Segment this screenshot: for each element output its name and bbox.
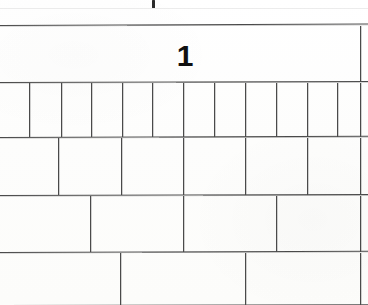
grid-divider-r5-c2 [245,253,246,305]
grid-divider-r3-c3 [183,138,184,195]
cropped-rule-above [0,8,368,9]
grid-divider-r2-c7 [214,83,215,137]
grid-divider-r2-c4 [122,83,123,137]
grid-divider-r3-c5 [307,138,308,195]
grid-divider-r2-c3 [91,83,92,137]
grid-divider-r4-c2 [183,196,184,252]
grid-divider-r2-c5 [152,83,153,137]
grid-divider-r2-c9 [276,83,277,137]
grid-right-border-r2 [360,83,361,137]
grid-hline-3 [0,194,368,196]
grid-hline-0 [0,24,368,26]
grid-divider-r3-c1 [58,138,59,195]
grid-divider-r2-c1 [29,83,30,137]
grid-divider-r2-c11 [337,83,338,137]
grid-divider-r2-c10 [307,83,308,137]
grid-divider-r2-c2 [61,83,62,137]
grid-divider-r2-c6 [183,83,184,137]
scanned-page: 1 [0,0,368,305]
grid-divider-r4-c1 [90,196,91,252]
grid-right-border-r4 [360,196,361,252]
row-1-value-label: 1 [1,41,368,71]
grid-right-border-r5 [360,253,361,305]
grid-divider-r4-c3 [276,196,277,252]
cropped-ink-mark-icon [152,0,155,8]
grid-divider-r3-c2 [121,138,122,195]
grid-right-border-r3 [360,138,361,195]
grid-divider-r3-c4 [245,138,246,195]
grid-divider-r5-c1 [120,253,121,305]
grid-divider-r2-c8 [245,83,246,137]
